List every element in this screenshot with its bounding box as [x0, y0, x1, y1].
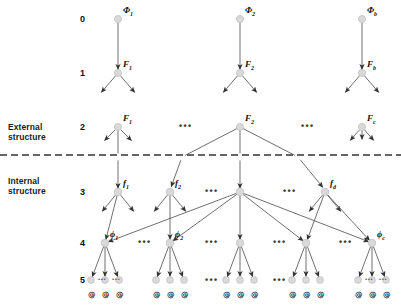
- node-L0-2: [358, 15, 365, 22]
- tree-edge: [243, 193, 368, 241]
- figure-canvas: ExternalstructureInternalstructure012345…: [0, 0, 401, 307]
- tree-edge: [120, 129, 131, 140]
- tree-edge: [300, 160, 323, 188]
- tree-edge: [120, 76, 134, 93]
- tree-edge: [359, 246, 371, 276]
- ellipsis-leaf-1: •••: [112, 276, 120, 282]
- node-label-Fc: Fc: [367, 113, 376, 125]
- tree-edge: [157, 246, 169, 276]
- leaf-L5-3-1: [303, 277, 310, 284]
- row-number-0: 0: [80, 14, 85, 24]
- node-label-fd: fd: [330, 178, 336, 190]
- terminal-symbol-0-1: @: [102, 290, 110, 299]
- tree-edge: [243, 129, 295, 156]
- node-label-ϕ1: ϕ1: [110, 229, 118, 241]
- node-label-f1: f1: [123, 178, 129, 190]
- node-label-F1: F1: [123, 113, 132, 125]
- leaf-L5-2-0: [223, 277, 230, 284]
- node-L0-1: [236, 15, 243, 22]
- node-L4-3: [302, 239, 310, 247]
- ellipsis-l3-1: •••: [283, 186, 297, 196]
- row-number-4: 4: [80, 238, 85, 248]
- row-number-3: 3: [80, 187, 85, 197]
- tree-edge: [345, 76, 359, 93]
- leaf-L5-1-2: [181, 277, 188, 284]
- leaf-L5-2-1: [237, 277, 244, 284]
- node-label-F1: F1: [123, 59, 132, 71]
- leaf-L5-3-0: [289, 277, 296, 284]
- terminal-symbol-1-1: @: [167, 290, 175, 299]
- node-label-F2: F2: [245, 59, 254, 71]
- side-label-internal: Internalstructure: [8, 176, 46, 196]
- node-L3-3: [321, 188, 329, 196]
- ellipsis-l2-1: •••: [301, 121, 315, 131]
- node-label-Fb: Fb: [367, 59, 376, 71]
- tree-edge: [307, 195, 324, 239]
- tree-edge: [223, 76, 237, 93]
- leaf-L5-1-1: [167, 277, 174, 284]
- terminal-symbol-3-0: @: [289, 290, 297, 299]
- ellipsis-l2-0: •••: [179, 121, 193, 131]
- terminal-symbol-0-0: @: [88, 290, 96, 299]
- node-L1-1: [236, 69, 243, 76]
- terminal-symbol-2-0: @: [223, 290, 231, 299]
- tree-edge: [171, 246, 183, 276]
- ellipsis-l3-0: •••: [205, 186, 219, 196]
- node-L0-0: [114, 15, 121, 22]
- terminal-symbol-4-2: @: [383, 290, 391, 299]
- node-L3-0: [114, 188, 122, 196]
- ellipsis-leaf-3: •••: [379, 276, 387, 282]
- ellipsis-leaf-2: •••: [365, 276, 373, 282]
- tree-edge: [373, 246, 385, 276]
- terminal-symbol-2-1: @: [237, 290, 245, 299]
- tree-edge: [105, 129, 116, 140]
- node-L2-1: [236, 123, 243, 130]
- node-label-f2: f2: [175, 178, 181, 190]
- tree-edge: [243, 194, 303, 241]
- row-number-1: 1: [80, 68, 85, 78]
- node-label-Φ1: Φ1: [123, 5, 133, 17]
- node-label-Φb: Φb: [367, 5, 377, 17]
- tree-edge: [241, 246, 253, 276]
- terminal-symbol-3-2: @: [317, 290, 325, 299]
- tree-edge: [106, 246, 118, 276]
- tree-edge: [92, 246, 104, 276]
- leaf-L5-4-0: [355, 277, 362, 284]
- node-L4-4: [368, 239, 376, 247]
- tree-edge: [172, 195, 186, 212]
- row-number-2: 2: [80, 122, 85, 132]
- terminal-symbol-0-2: @: [116, 290, 124, 299]
- node-L3-1: [166, 188, 174, 196]
- ellipsis-l4-0: •••: [138, 237, 152, 247]
- node-L4-0: [101, 239, 109, 247]
- tree-edge: [307, 246, 319, 276]
- node-L3-2: [236, 188, 244, 196]
- terminal-symbol-3-1: @: [303, 290, 311, 299]
- node-label-ϕ2: ϕ2: [175, 229, 183, 241]
- ellipsis-l5-1: •••: [273, 275, 287, 285]
- tree-edge: [154, 195, 168, 212]
- tree-edge: [185, 129, 237, 156]
- node-L1-2: [358, 69, 365, 76]
- leaf-L5-0-0: [88, 277, 95, 284]
- tree-edge: [227, 246, 239, 276]
- tree-edge: [364, 130, 373, 141]
- node-L2-2: [358, 123, 365, 130]
- node-label-F2: F2: [245, 113, 254, 125]
- terminal-symbol-1-0: @: [153, 290, 161, 299]
- tree-edge: [120, 195, 134, 212]
- node-L4-1: [166, 239, 174, 247]
- ellipsis-l4-1: •••: [205, 237, 219, 247]
- node-label-Φ2: Φ2: [245, 5, 255, 17]
- tree-graphics: [0, 0, 401, 307]
- ellipsis-l4-3: •••: [339, 237, 353, 247]
- ellipsis-leaf-0: •••: [98, 276, 106, 282]
- tree-edge: [101, 76, 115, 93]
- terminal-symbol-1-2: @: [181, 290, 189, 299]
- ellipsis-l5-0: •••: [205, 275, 219, 285]
- tree-edge: [293, 246, 305, 276]
- leaf-L5-2-2: [251, 277, 258, 284]
- terminal-symbol-4-0: @: [355, 290, 363, 299]
- terminal-symbol-4-1: @: [369, 290, 377, 299]
- node-L2-0: [114, 123, 121, 130]
